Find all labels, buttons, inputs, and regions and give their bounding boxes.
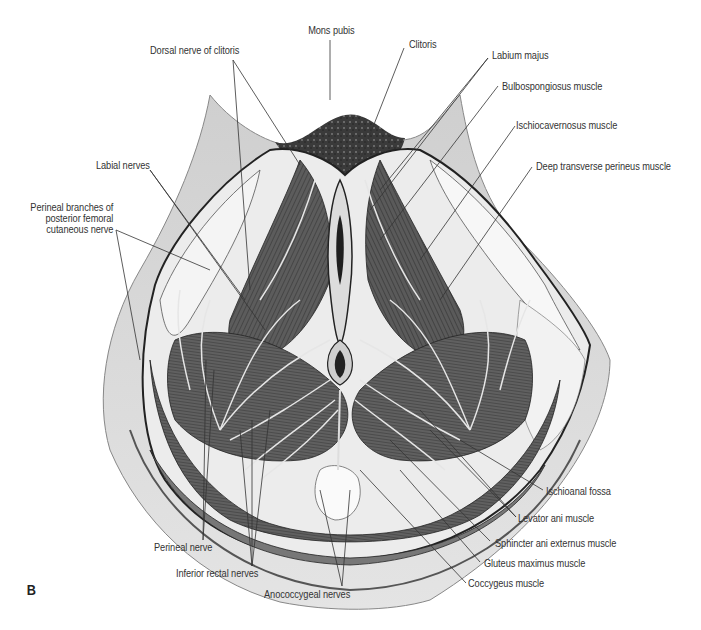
panel-letter: B — [27, 581, 36, 598]
label-ischiocavernosus: Ischiocavernosus muscle — [516, 119, 617, 131]
label-ischioanal-fossa: Ischioanal fossa — [546, 485, 611, 497]
label-sphincter-ani-externus: Sphincter ani externus muscle — [495, 537, 616, 549]
label-mons-pubis: Mons pubis — [308, 24, 354, 36]
label-coccygeus: Coccygeus muscle — [468, 577, 544, 589]
label-dorsal-nerve-clitoris: Dorsal nerve of clitoris — [150, 44, 239, 56]
vestibule — [328, 180, 353, 385]
label-gluteus-maximus: Gluteus maximus muscle — [484, 557, 585, 569]
label-deep-transverse-perineus: Deep transverse perineus muscle — [536, 160, 671, 172]
label-perineal-branches-posterior-femoral-cutaneous-nerve: Perineal branches of posterior femoral c… — [30, 202, 113, 235]
label-labium-majus: Labium majus — [492, 49, 548, 61]
label-clitoris: Clitoris — [409, 38, 437, 50]
label-perineal-nerve: Perineal nerve — [154, 541, 212, 553]
label-levator-ani: Levator ani muscle — [518, 512, 594, 524]
label-inferior-rectal-nerves: Inferior rectal nerves — [176, 567, 258, 579]
perineum-illustration — [0, 0, 701, 630]
label-anococcygeal-nerves: Anococcygeal nerves — [264, 588, 350, 600]
label-bulbospongiosus: Bulbospongiosus muscle — [502, 80, 602, 92]
label-labial-nerves: Labial nerves — [96, 159, 150, 171]
